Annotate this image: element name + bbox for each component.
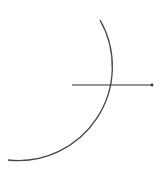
ray-endpoint-dot: [151, 84, 154, 87]
circular-arc: [8, 20, 112, 161]
diagram-canvas: [0, 0, 162, 177]
